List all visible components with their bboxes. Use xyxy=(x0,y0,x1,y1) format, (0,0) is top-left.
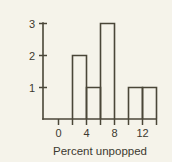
y-tick-label-2: 2 xyxy=(29,50,35,62)
y-tick-label-1: 1 xyxy=(29,82,35,94)
y-tick-label-3: 3 xyxy=(29,18,35,30)
x-tick-label-12: 12 xyxy=(136,127,148,139)
x-axis-title: Percent unpopped xyxy=(53,145,147,157)
histogram-chart: 3 2 1 0 4 8 12 xyxy=(0,0,172,162)
chart-canvas: 3 2 1 0 4 8 12 xyxy=(0,0,172,162)
y-axis-tick-labels: 3 2 1 xyxy=(29,18,35,94)
x-tick-label-8: 8 xyxy=(111,127,117,139)
x-tick-label-4: 4 xyxy=(83,127,89,139)
x-tick-label-0: 0 xyxy=(55,127,61,139)
